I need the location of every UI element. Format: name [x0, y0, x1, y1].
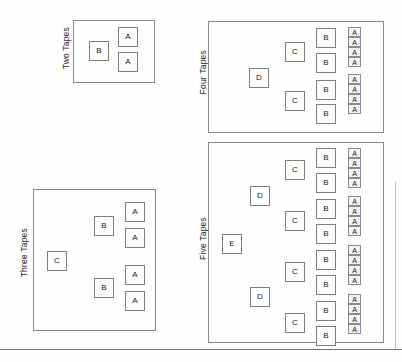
tape-node-c: C — [285, 211, 305, 231]
panel-label-two-tapes: Two Tapes — [62, 27, 71, 69]
tape-node-b: B — [316, 80, 336, 100]
tape-node-b: B — [316, 326, 336, 346]
tape-node-a: A — [348, 158, 361, 168]
tape-node-b: B — [316, 104, 336, 124]
tape-node-b: B — [316, 301, 336, 321]
tape-node-b: B — [316, 199, 336, 219]
tape-node-a: A — [118, 52, 138, 72]
tape-node-c: C — [285, 262, 305, 282]
tape-node-a: A — [125, 265, 145, 285]
tape-node-d: D — [250, 287, 270, 307]
bottom-rule — [0, 349, 402, 350]
tape-node-c: C — [285, 160, 305, 180]
tape-node-a: A — [348, 255, 361, 265]
tape-node-a: A — [348, 84, 361, 94]
tape-node-a: A — [348, 148, 361, 158]
tape-node-a: A — [348, 265, 361, 275]
panel-label-three-tapes: Three Tapes — [20, 228, 29, 277]
tape-node-b: B — [94, 216, 114, 236]
tape-node-c: C — [47, 251, 67, 271]
tape-node-b: B — [89, 41, 109, 61]
tape-node-c: C — [285, 42, 305, 62]
tape-node-a: A — [348, 168, 361, 178]
tape-node-a: A — [125, 291, 145, 311]
tape-node-a: A — [348, 226, 361, 236]
tape-node-d: D — [249, 68, 269, 88]
tape-node-e: E — [222, 234, 242, 254]
tape-node-a: A — [348, 94, 361, 104]
tape-node-c: C — [285, 91, 305, 111]
tape-node-b: B — [316, 28, 336, 48]
tape-node-b: B — [316, 148, 336, 168]
right-edge-rule — [395, 182, 396, 349]
tape-node-a: A — [348, 74, 361, 84]
tape-node-b: B — [316, 250, 336, 270]
tape-node-a: A — [125, 202, 145, 222]
tape-node-a: A — [348, 216, 361, 226]
tape-node-b: B — [94, 278, 114, 298]
tape-node-b: B — [316, 224, 336, 244]
panel-label-four-tapes: Four Tapes — [199, 50, 208, 94]
tape-node-b: B — [316, 275, 336, 295]
tape-node-b: B — [316, 173, 336, 193]
tape-node-a: A — [348, 37, 361, 47]
tape-node-b: B — [316, 53, 336, 73]
tape-node-a: A — [118, 27, 138, 47]
tape-node-a: A — [348, 304, 361, 314]
tape-node-a: A — [348, 27, 361, 37]
tape-node-a: A — [348, 104, 361, 114]
figure-canvas: Two TapesBAAThree TapesCBBAAAAFour Tapes… — [0, 0, 402, 362]
tape-node-d: D — [250, 186, 270, 206]
tape-node-a: A — [348, 245, 361, 255]
panel-label-five-tapes: Five Tapes — [199, 217, 208, 260]
panel-two-tapes — [73, 20, 155, 83]
tape-node-c: C — [285, 313, 305, 333]
tape-node-a: A — [348, 57, 361, 67]
tape-node-a: A — [348, 196, 361, 206]
tape-node-a: A — [348, 275, 361, 285]
tape-node-a: A — [348, 47, 361, 57]
tape-node-a: A — [348, 294, 361, 304]
tape-node-a: A — [348, 324, 361, 334]
tape-node-a: A — [125, 228, 145, 248]
tape-node-a: A — [348, 206, 361, 216]
tape-node-a: A — [348, 314, 361, 324]
tape-node-a: A — [348, 178, 361, 188]
